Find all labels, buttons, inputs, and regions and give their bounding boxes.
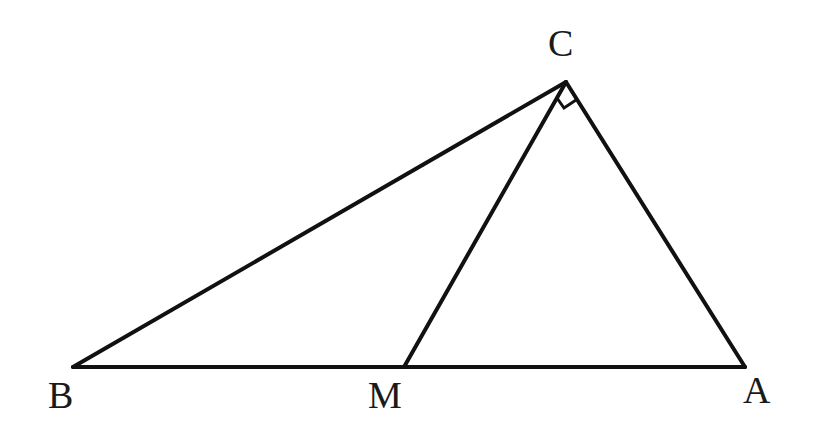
label-b: B bbox=[48, 374, 73, 416]
triangle-diagram: C B M A bbox=[0, 0, 819, 435]
label-m: M bbox=[368, 374, 402, 416]
label-c: C bbox=[548, 22, 573, 64]
segment-ca bbox=[566, 82, 745, 367]
right-angle-marker bbox=[557, 98, 576, 108]
segment-bc bbox=[73, 82, 566, 367]
label-a: A bbox=[743, 369, 771, 411]
segment-cm bbox=[404, 82, 566, 367]
